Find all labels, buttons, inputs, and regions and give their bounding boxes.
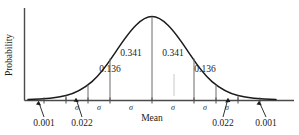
area-label-left-341: 0.341 xyxy=(120,48,142,58)
arrowhead-tail-right-001 xyxy=(257,101,262,105)
sigma-label-3: σ xyxy=(129,103,134,112)
normal-distribution-figure: Probability 0.136 0.341 0.341 0.136 σ σ … xyxy=(0,0,299,135)
tail-label-left-001: 0.001 xyxy=(33,118,55,128)
area-label-right-341: 0.341 xyxy=(162,48,184,58)
area-label-left-136: 0.136 xyxy=(99,64,121,74)
bell-curve-plot: Probability 0.136 0.341 0.341 0.136 σ σ … xyxy=(0,0,299,135)
y-axis-title: Probability xyxy=(4,34,14,76)
sigma-label-2: σ xyxy=(97,103,102,112)
mean-label: Mean xyxy=(141,113,163,123)
sigma-label-4: σ xyxy=(171,103,176,112)
area-label-right-136: 0.136 xyxy=(194,64,216,74)
arrowhead-tail-left-001 xyxy=(36,101,41,105)
tail-label-left-022: 0.022 xyxy=(71,118,93,128)
tail-label-right-022: 0.022 xyxy=(212,118,234,128)
sigma-label-5: σ xyxy=(203,103,208,112)
sigma-label-6: σ xyxy=(225,103,230,112)
tail-label-right-001: 0.001 xyxy=(255,118,277,128)
